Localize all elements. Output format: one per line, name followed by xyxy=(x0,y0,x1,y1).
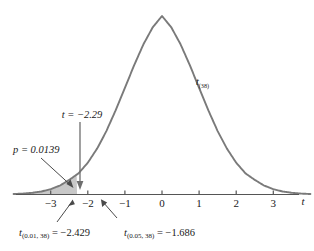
x-axis-tick-label: 1 xyxy=(196,197,202,209)
statistics-figure: −3−2−10123 t t = −2.29 p = 0.0139 t(0.01… xyxy=(0,0,314,251)
p-value-leader-line xyxy=(41,158,71,185)
crit-value-001-label: t(0.01, 38) = −2.429 xyxy=(19,227,90,240)
t-distribution-chart: −3−2−10123 t t = −2.29 p = 0.0139 t(0.01… xyxy=(0,0,314,251)
x-axis-tick-label: 2 xyxy=(233,197,239,209)
x-axis-tick-label: −1 xyxy=(119,197,131,209)
x-axis-tick-label: −2 xyxy=(82,197,94,209)
test-statistic-arrowhead xyxy=(77,181,84,190)
x-axis-tick-label: 0 xyxy=(159,197,165,209)
test-statistic-label: t = −2.29 xyxy=(62,109,103,120)
t-distribution-curve xyxy=(14,16,311,194)
crit-value-005-label: t(0.05, 38) = −1.686 xyxy=(124,227,195,240)
x-axis-tick-label: 3 xyxy=(271,197,277,209)
x-axis-tick-labels: −3−2−10123 xyxy=(45,197,277,209)
x-axis-variable-label: t xyxy=(301,195,305,207)
p-value-label: p = 0.0139 xyxy=(12,144,60,155)
curve-series-label: t(38) xyxy=(196,76,209,90)
x-axis-tick-label: −3 xyxy=(45,197,57,209)
crit-value-001-arrowhead xyxy=(68,200,75,207)
crit-value-001-leader-line xyxy=(57,203,71,222)
